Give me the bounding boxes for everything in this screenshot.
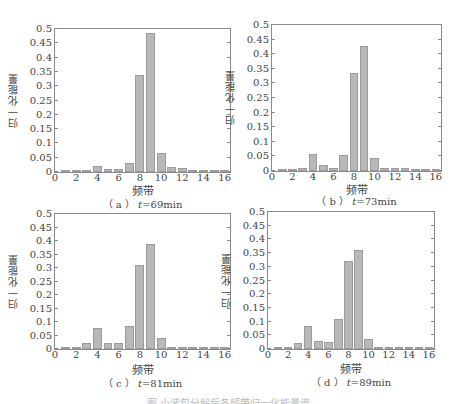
y-tick-label: 0.2 <box>235 289 268 299</box>
y-tick-mark <box>438 68 441 69</box>
bar-band-8 <box>350 73 359 171</box>
bar-band-9 <box>360 46 369 171</box>
y-tick-label: 0.35 <box>235 248 268 258</box>
x-tick-label: 10 <box>368 171 381 183</box>
y-tick-label: 0.45 <box>235 221 268 231</box>
bar-band-11 <box>380 168 389 171</box>
y-tick-mark <box>55 267 58 268</box>
bar-band-3 <box>82 170 91 172</box>
y-tick-label: 0.05 <box>235 330 268 340</box>
y-tick-label: 0.25 <box>235 276 268 286</box>
x-tick-label: 10 <box>155 349 168 361</box>
plot-area: 00.050.10.150.20.250.30.350.40.450.50246… <box>54 213 231 350</box>
y-tick-mark <box>227 42 230 43</box>
y-tick-mark <box>55 114 58 115</box>
bar-band-3 <box>298 168 307 172</box>
x-tick-label: 16 <box>430 171 443 183</box>
y-tick-mark <box>55 254 58 255</box>
y-tick-label: 0.05 <box>22 331 55 341</box>
x-tick-label: 6 <box>325 349 331 361</box>
y-tick-mark <box>272 126 275 127</box>
y-tick-label: 0.25 <box>22 96 55 106</box>
y-tick-label: 0.15 <box>239 122 272 132</box>
bar-band-7 <box>125 163 134 172</box>
y-tick-mark <box>268 280 271 281</box>
y-tick-mark <box>438 155 441 156</box>
x-tick-label: 0 <box>269 171 275 183</box>
y-tick-mark <box>268 252 271 253</box>
y-tick-mark <box>268 225 271 226</box>
y-tick-mark <box>431 334 434 335</box>
x-tick-label: 12 <box>176 349 189 361</box>
y-tick-mark <box>272 155 275 156</box>
bar-band-1 <box>61 170 70 172</box>
y-axis-label: 归一化能量 <box>6 254 21 309</box>
bar-band-14 <box>199 347 208 349</box>
subfigure-caption: （ b ） t=73min <box>316 193 396 208</box>
bar-band-10 <box>157 153 166 172</box>
bar-band-13 <box>401 168 410 171</box>
y-tick-mark <box>227 227 230 228</box>
x-tick-label: 8 <box>137 349 143 361</box>
y-tick-mark <box>438 126 441 127</box>
bar-band-3 <box>294 343 302 349</box>
y-tick-mark <box>431 280 434 281</box>
y-tick-mark <box>272 141 275 142</box>
y-tick-mark <box>227 240 230 241</box>
bar-band-4 <box>93 328 102 349</box>
bar-band-11 <box>167 167 176 172</box>
bar-band-11 <box>167 347 176 349</box>
y-tick-mark <box>55 42 58 43</box>
y-tick-mark <box>55 240 58 241</box>
bar-band-3 <box>82 343 91 349</box>
bar-band-7 <box>334 319 342 349</box>
x-tick-label: 16 <box>423 349 436 361</box>
y-tick-mark <box>227 142 230 143</box>
y-tick-label: 0.15 <box>22 124 55 134</box>
x-tick-label: 14 <box>197 349 210 361</box>
y-tick-mark <box>438 97 441 98</box>
y-tick-label: 0.45 <box>22 223 55 233</box>
x-tick-label: 0 <box>265 349 271 361</box>
bar-band-6 <box>114 169 123 172</box>
y-tick-mark <box>268 334 271 335</box>
y-tick-label: 0.2 <box>239 108 272 118</box>
y-tick-mark <box>431 307 434 308</box>
y-tick-mark <box>55 142 58 143</box>
y-tick-mark <box>438 141 441 142</box>
y-tick-label: 0.4 <box>235 234 268 244</box>
bar-band-4 <box>304 326 312 349</box>
bar-band-4 <box>93 166 102 172</box>
y-tick-label: 0.3 <box>22 81 55 91</box>
bar-band-8 <box>135 265 144 349</box>
bar-band-14 <box>405 347 413 349</box>
bar-band-5 <box>319 165 328 171</box>
bar-band-4 <box>309 154 318 171</box>
y-tick-label: 0.45 <box>22 38 55 48</box>
y-tick-label: 0.05 <box>22 153 55 163</box>
subfigure-caption: （ a ） t=69min <box>103 196 183 211</box>
bar-band-10 <box>370 158 379 171</box>
bar-band-14 <box>411 169 420 171</box>
bar-band-1 <box>61 347 70 349</box>
y-tick-label: 0.4 <box>22 53 55 63</box>
y-tick-mark <box>55 157 58 158</box>
y-tick-label: 0.3 <box>239 78 272 88</box>
bar-band-15 <box>421 169 430 171</box>
bar-band-9 <box>146 244 155 349</box>
y-tick-label: 0.15 <box>235 303 268 313</box>
y-tick-mark <box>55 308 58 309</box>
y-tick-label: 0.5 <box>239 20 272 30</box>
bar-band-16 <box>425 347 433 349</box>
y-tick-label: 0.3 <box>235 262 268 272</box>
bar-band-14 <box>199 170 208 172</box>
y-tick-label: 0.25 <box>22 277 55 287</box>
x-tick-label: 4 <box>305 349 311 361</box>
bar-band-12 <box>178 347 187 349</box>
y-tick-mark <box>268 266 271 267</box>
y-tick-label: 0.25 <box>239 93 272 103</box>
y-tick-label: 0.05 <box>239 151 272 161</box>
bar-band-5 <box>104 169 113 172</box>
y-tick-mark <box>272 97 275 98</box>
y-tick-mark <box>272 24 275 25</box>
